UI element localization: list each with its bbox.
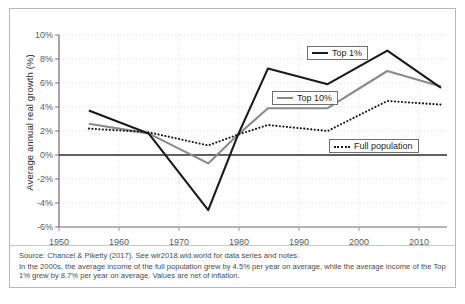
- legend-label-top-10-percent: Top 10%: [297, 93, 332, 103]
- gridlines-vertical: [119, 35, 419, 227]
- legend-label-full-population: Full population: [354, 141, 413, 151]
- chart-figure: Average annual real growth (%) 10% 8% 6%…: [9, 8, 456, 288]
- legend-swatch-dotted-icon: [334, 142, 350, 151]
- x-tick-marks: [59, 227, 419, 231]
- legend-item-top-10-percent[interactable]: Top 10%: [272, 91, 338, 105]
- legend-item-full-population[interactable]: Full population: [329, 139, 419, 153]
- footnote-source: Source: Chancel & Piketty (2017). See wi…: [19, 251, 446, 260]
- chart-footnotes: Source: Chancel & Piketty (2017). See wi…: [10, 245, 455, 287]
- legend-swatch-solid-dark-icon: [312, 49, 328, 58]
- legend-item-top-1-percent[interactable]: Top 1%: [307, 46, 368, 60]
- footnote-note: In the 2000s, the average income of the …: [19, 262, 446, 280]
- series-line-top-1-percent: [89, 51, 441, 211]
- legend-label-top-1-percent: Top 1%: [332, 48, 362, 58]
- legend-swatch-solid-gray-icon: [277, 94, 293, 103]
- gridlines-horizontal: [59, 35, 447, 203]
- plot-area: Average annual real growth (%) 10% 8% 6%…: [10, 9, 455, 245]
- series-paths: [89, 51, 441, 211]
- chart-canvas: [10, 9, 455, 245]
